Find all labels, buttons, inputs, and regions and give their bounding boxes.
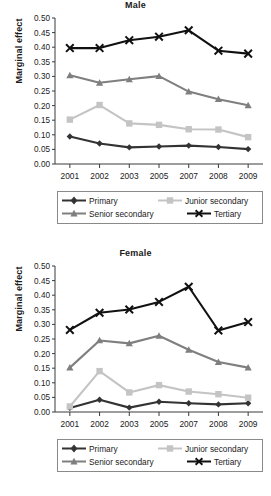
y-tick-label: 0.35 xyxy=(34,58,50,67)
data-point-diamond xyxy=(215,401,221,407)
x-tick-label: 2002 xyxy=(90,171,109,181)
data-point-square xyxy=(215,391,221,397)
data-point-square xyxy=(245,134,251,140)
y-tick-label: 0.40 xyxy=(34,291,50,300)
data-point-diamond xyxy=(245,146,251,152)
line-chart-female: 0.000.050.100.150.200.250.300.350.400.45… xyxy=(24,262,268,432)
y-axis-label-male: Marginal effect xyxy=(14,0,24,111)
legend-key-senior-secondary-triangle-icon xyxy=(61,456,87,467)
legend-item-tertiary[interactable]: Tertiary xyxy=(186,208,241,219)
x-tick-label: 2001 xyxy=(61,419,80,429)
legend-key-tertiary-cross-icon xyxy=(186,208,212,219)
data-point-diamond xyxy=(126,404,132,410)
legend-item-senior-secondary[interactable]: Senior secondary xyxy=(61,208,186,219)
x-tick-label: 2007 xyxy=(179,419,198,429)
x-tick-label: 2009 xyxy=(239,419,258,429)
data-point-diamond xyxy=(96,140,102,146)
y-tick-label: 0.25 xyxy=(34,87,50,96)
data-point-cross-x xyxy=(66,326,74,334)
data-point-cross-x xyxy=(185,283,193,291)
y-tick-label: 0.40 xyxy=(34,43,50,52)
data-point-diamond xyxy=(186,400,192,406)
legend-label-tertiary: Tertiary xyxy=(212,457,241,467)
legend-female: Primary Junior secondary Senior secondar… xyxy=(57,439,263,472)
data-point-square xyxy=(126,389,132,395)
y-tick-label: 0.45 xyxy=(34,29,50,38)
legend-label-senior-secondary: Senior secondary xyxy=(87,209,154,219)
data-point-square xyxy=(126,120,132,126)
legend-label-junior-secondary: Junior secondary xyxy=(183,444,248,454)
y-tick-label: 0.45 xyxy=(34,277,50,286)
y-tick-label: 0.00 xyxy=(34,160,50,169)
legend-item-primary[interactable]: Primary xyxy=(61,443,157,454)
y-tick-label: 0.10 xyxy=(34,131,50,140)
series-line-senior-secondary xyxy=(70,336,248,368)
data-point-square xyxy=(215,126,221,132)
y-tick-label: 0.15 xyxy=(34,364,50,373)
legend-item-junior-secondary[interactable]: Junior secondary xyxy=(157,195,248,206)
legend-label-primary: Primary xyxy=(87,444,118,454)
x-tick-label: 2003 xyxy=(120,171,139,181)
x-tick-label: 2005 xyxy=(150,419,169,429)
data-point-diamond xyxy=(156,143,162,149)
y-tick-label: 0.10 xyxy=(34,379,50,388)
legend-label-senior-secondary: Senior secondary xyxy=(87,457,154,467)
data-point-diamond xyxy=(215,144,221,150)
chart-panel-male: Male Marginal effect 0.000.050.100.150.2… xyxy=(0,0,271,248)
y-tick-label: 0.20 xyxy=(34,102,50,111)
y-tick-label: 0.30 xyxy=(34,72,50,81)
data-point-square xyxy=(156,122,162,128)
legend-key-tertiary-cross-icon xyxy=(186,456,212,467)
y-tick-label: 0.20 xyxy=(34,350,50,359)
data-point-square xyxy=(96,368,102,374)
legend-key-primary-diamond-icon xyxy=(61,443,87,454)
data-point-diamond xyxy=(186,142,192,148)
y-axis-label-female: Marginal effect xyxy=(14,239,24,359)
legend-item-senior-secondary[interactable]: Senior secondary xyxy=(61,456,186,467)
data-point-diamond xyxy=(126,144,132,150)
x-tick-label: 2008 xyxy=(209,171,228,181)
x-tick-label: 2007 xyxy=(179,171,198,181)
y-tick-label: 0.50 xyxy=(34,14,50,23)
legend-item-primary[interactable]: Primary xyxy=(61,195,157,206)
x-tick-label: 2002 xyxy=(90,419,109,429)
y-tick-label: 0.50 xyxy=(34,262,50,271)
y-tick-label: 0.30 xyxy=(34,320,50,329)
x-tick-label: 2001 xyxy=(61,171,80,181)
legend-key-junior-secondary-square-icon xyxy=(157,443,183,454)
data-point-diamond xyxy=(245,400,251,406)
line-chart-male: 0.000.050.100.150.200.250.300.350.400.45… xyxy=(24,14,268,184)
chart-title-female: Female xyxy=(0,248,271,258)
data-point-square xyxy=(245,394,251,400)
x-tick-label: 2003 xyxy=(120,419,139,429)
chart-panel-female: Female Marginal effect 0.000.050.100.150… xyxy=(0,248,271,496)
x-tick-label: 2005 xyxy=(150,171,169,181)
data-point-diamond xyxy=(96,397,102,403)
data-point-diamond xyxy=(156,399,162,405)
legend-key-junior-secondary-square-icon xyxy=(157,195,183,206)
legend-label-tertiary: Tertiary xyxy=(212,209,241,219)
y-tick-label: 0.25 xyxy=(34,335,50,344)
y-tick-label: 0.05 xyxy=(34,393,50,402)
chart-title-male: Male xyxy=(0,0,271,10)
y-tick-label: 0.15 xyxy=(34,116,50,125)
data-point-square xyxy=(156,382,162,388)
legend-male: Primary Junior secondary Senior secondar… xyxy=(57,191,263,224)
series-line-senior-secondary xyxy=(70,75,248,105)
legend-item-junior-secondary[interactable]: Junior secondary xyxy=(157,443,248,454)
x-tick-label: 2008 xyxy=(209,419,228,429)
legend-label-junior-secondary: Junior secondary xyxy=(183,196,248,206)
y-tick-label: 0.00 xyxy=(34,408,50,417)
data-point-square xyxy=(67,116,73,122)
plot-area-male: 0.000.050.100.150.200.250.300.350.400.45… xyxy=(24,14,268,184)
x-tick-label: 2009 xyxy=(239,171,258,181)
legend-item-tertiary[interactable]: Tertiary xyxy=(186,456,241,467)
y-tick-label: 0.35 xyxy=(34,306,50,315)
y-tick-label: 0.05 xyxy=(34,145,50,154)
legend-label-primary: Primary xyxy=(87,196,118,206)
legend-key-senior-secondary-triangle-icon xyxy=(61,208,87,219)
data-point-square xyxy=(186,388,192,394)
data-point-square xyxy=(67,403,73,409)
data-point-square xyxy=(186,126,192,132)
data-point-square xyxy=(96,102,102,108)
